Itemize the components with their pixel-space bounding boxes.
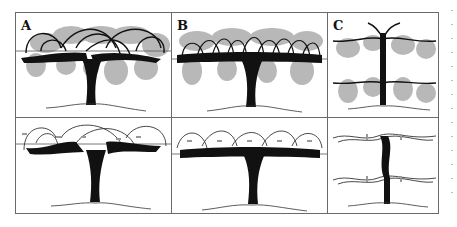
panel-b-bottom xyxy=(172,118,327,214)
cordon-trained-vine-illustration xyxy=(172,13,327,117)
page-margin-marks xyxy=(451,10,454,215)
panel-a-bottom xyxy=(16,118,171,214)
panel-a-top: A xyxy=(16,13,171,117)
two-tier-vine-pruned-illustration xyxy=(328,118,440,214)
head-trained-vine-pruned-illustration xyxy=(16,118,171,214)
panel-c-bottom xyxy=(328,118,440,214)
head-trained-vine-illustration xyxy=(16,13,171,117)
panel-b-top: B xyxy=(172,13,327,117)
vine-training-figure: A B xyxy=(15,12,439,214)
cordon-trained-vine-pruned-illustration xyxy=(172,118,327,214)
panel-c-top: C xyxy=(328,13,440,117)
two-tier-vine-illustration xyxy=(328,13,440,117)
